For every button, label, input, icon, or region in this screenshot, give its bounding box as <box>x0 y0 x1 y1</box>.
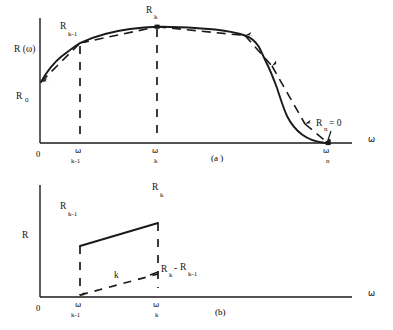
panel-b-tick-wk-minus-1: ω k-1 <box>71 300 81 319</box>
svg-text:R: R <box>161 264 168 274</box>
svg-text:ω: ω <box>75 146 81 155</box>
svg-text:R: R <box>146 5 153 15</box>
panel-a-chord-4 <box>245 36 272 67</box>
panel-b-label-rk: R k <box>152 182 164 199</box>
svg-text:0: 0 <box>25 96 29 104</box>
panel-a-annotation-rn-zero: R n = 0 <box>316 118 342 133</box>
panel-a-point-rk <box>155 25 160 29</box>
svg-text:R: R <box>16 91 23 101</box>
panel-b-slope-ramp <box>80 274 158 295</box>
svg-text:k: k <box>155 311 159 319</box>
panel-a-marked-points <box>41 25 331 145</box>
panel-b-tick-wk: ω k <box>153 300 159 319</box>
panel-a-chord-5 <box>272 66 305 124</box>
svg-text:ω: ω <box>323 146 329 155</box>
panel-b-slope-label: k <box>114 270 119 280</box>
panel-b-tick-origin: 0 <box>36 303 40 313</box>
svg-text:R: R <box>180 262 187 272</box>
figure-svg: R (ω) R 0 R k-1 R k R n = 0 <box>0 0 393 330</box>
svg-text:R: R <box>316 118 323 128</box>
panel-b-y-axis-label: R <box>22 230 29 240</box>
svg-text:R: R <box>60 21 67 31</box>
svg-text:k: k <box>154 157 158 165</box>
panel-a-label-rk: R k <box>146 5 158 21</box>
panel-a-tick-wk: ω k <box>152 146 158 165</box>
panel-b-caption: (b) <box>215 307 226 317</box>
svg-text:= 0: = 0 <box>329 118 342 128</box>
svg-text:k-1: k-1 <box>71 311 81 319</box>
panel-a-tick-wk-minus-1: ω k-1 <box>71 146 81 165</box>
svg-text:R: R <box>60 201 67 211</box>
panel-b-label-rk-minus-1: R k-1 <box>60 201 78 218</box>
panel-a-label-rk-minus-1: R k-1 <box>60 21 78 38</box>
svg-text:k: k <box>154 13 158 21</box>
panel-a-chord-1 <box>41 43 80 82</box>
svg-text:R: R <box>152 182 159 192</box>
svg-text:k-1: k-1 <box>71 157 81 165</box>
svg-text:k-1: k-1 <box>68 210 78 218</box>
svg-text:n: n <box>324 125 328 133</box>
svg-text:k: k <box>160 191 164 199</box>
panel-a: R (ω) R 0 R k-1 R k R n = 0 <box>14 5 375 165</box>
svg-text:ω: ω <box>75 300 81 309</box>
svg-text:k: k <box>169 271 173 279</box>
panel-a-tick-wn: ω n <box>323 146 330 165</box>
panel-a-chord-2 <box>80 27 157 43</box>
figure-root: R (ω) R 0 R k-1 R k R n = 0 <box>0 0 393 330</box>
panel-b: R R k-1 R k k R k - R k-1 ω <box>22 182 375 319</box>
panel-a-point-mid-1 <box>245 32 254 35</box>
panel-a-point-mid-3 <box>305 120 314 124</box>
panel-b-delta-label: R k - R k-1 <box>161 262 198 279</box>
panel-a-response-curve <box>41 27 330 143</box>
svg-text:n: n <box>326 157 330 165</box>
svg-text:ω: ω <box>152 146 158 155</box>
svg-text:k-1: k-1 <box>188 270 198 278</box>
panel-b-x-axis-label: ω <box>368 288 375 298</box>
svg-text:k-1: k-1 <box>68 30 78 38</box>
panel-a-point-mid-2 <box>272 61 280 67</box>
svg-text:-: - <box>174 263 177 273</box>
panel-a-caption: (a ) <box>211 153 223 163</box>
panel-a-x-axis-label: ω <box>368 134 375 144</box>
panel-b-linear-segment <box>80 223 158 246</box>
panel-a-tick-origin: 0 <box>36 149 40 159</box>
panel-a-y-axis-label: R (ω) <box>14 44 35 55</box>
svg-text:ω: ω <box>153 300 159 309</box>
panel-a-label-r0: R 0 <box>16 91 29 104</box>
